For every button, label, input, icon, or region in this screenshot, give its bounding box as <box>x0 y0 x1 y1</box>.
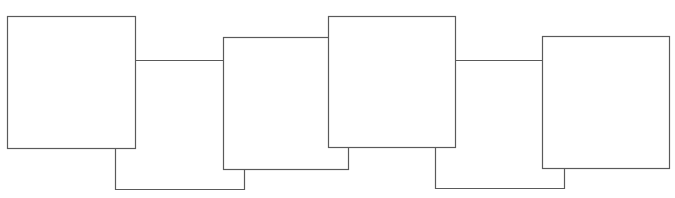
box-3 <box>329 17 456 148</box>
diagram-canvas <box>0 0 675 198</box>
box-group <box>8 17 670 170</box>
box-1 <box>8 17 136 149</box>
box-4 <box>543 37 670 169</box>
